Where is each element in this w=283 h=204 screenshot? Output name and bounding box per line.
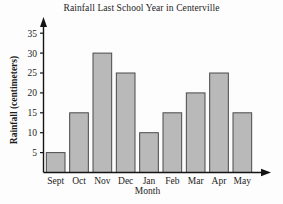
plot-area: 5101520253035 SeptOctNovDecJanFebMarAprM…	[0, 0, 283, 204]
bar-apr	[210, 73, 229, 173]
y-tick-label: 20	[28, 88, 38, 98]
right-arrow-icon	[261, 169, 271, 176]
bar-sept	[46, 153, 65, 173]
y-ticks-group: 5101520253035	[28, 29, 45, 158]
y-tick-label: 25	[28, 68, 38, 78]
y-tick-label: 5	[32, 148, 37, 158]
x-tick-label-may: May	[234, 176, 252, 186]
bar-mar	[186, 93, 205, 173]
x-tick-label-oct: Oct	[72, 176, 86, 186]
x-tick-label-feb: Feb	[165, 176, 180, 186]
bar-oct	[70, 113, 89, 173]
y-tick-label: 35	[28, 29, 38, 39]
y-tick-label: 15	[28, 108, 38, 118]
x-tick-label-jan: Jan	[143, 176, 156, 186]
x-tick-label-dec: Dec	[118, 176, 133, 186]
x-tick-label-apr: Apr	[212, 176, 228, 186]
bar-jan	[140, 133, 159, 173]
bar-feb	[163, 113, 182, 173]
bar-may	[233, 113, 252, 173]
bar-chart-figure: Rainfall Last School Year in Centerville…	[0, 0, 283, 204]
x-tick-label-nov: Nov	[94, 176, 111, 186]
bar-nov	[93, 53, 112, 172]
bar-dec	[116, 73, 135, 173]
x-tick-label-sept: Sept	[47, 176, 64, 186]
x-tick-label-mar: Mar	[188, 176, 205, 186]
x-tick-labels-group: SeptOctNovDecJanFebMarAprMay	[47, 176, 251, 186]
up-arrow-icon	[40, 17, 47, 27]
y-tick-label: 30	[28, 49, 38, 59]
y-tick-label: 10	[28, 128, 38, 138]
bars-group	[46, 53, 251, 172]
